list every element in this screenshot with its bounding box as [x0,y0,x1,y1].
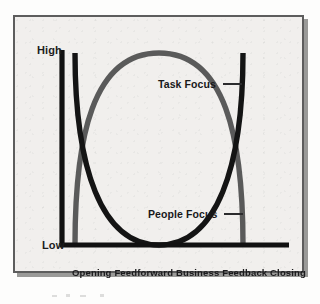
x-tick-closing: Closing [270,267,306,278]
y-axis-label-high: High [37,44,62,56]
x-tick-opening: Opening [72,267,112,278]
x-tick-feedforward: Feedforward [114,267,173,278]
task-focus-leader-line [223,83,242,85]
people-focus-annotation-text: People Focus [148,208,217,220]
x-tick-feedback: Feedback [222,267,267,278]
figure-container: High Low Task Focus People Focus Opening… [0,0,320,304]
people-focus-leader-line [224,213,243,215]
x-tick-business: Business [176,267,219,278]
task-focus-annotation-text: Task Focus [158,78,216,90]
x-axis-tick-labels: Opening Feedforward Business Feedback Cl… [72,267,306,283]
chart-panel: High Low Task Focus People Focus Opening… [13,15,304,273]
task-focus-annotation: Task Focus [158,78,242,90]
page-bleed-through-marks [48,291,118,300]
people-focus-annotation: People Focus [148,208,243,220]
y-axis-label-low: Low [42,239,64,251]
